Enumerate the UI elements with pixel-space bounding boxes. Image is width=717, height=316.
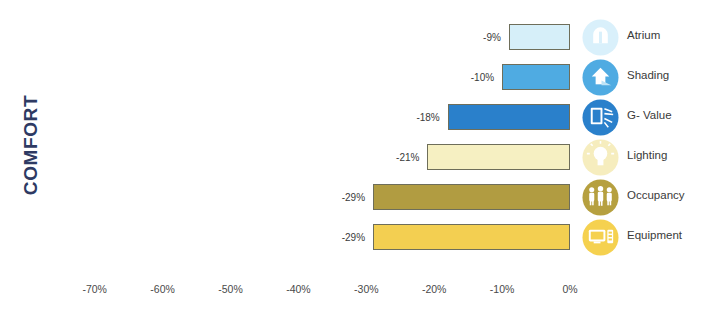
legend-label: Lighting xyxy=(627,149,667,161)
x-tick-label: -40% xyxy=(286,283,311,295)
g-value-icon xyxy=(582,99,619,136)
shading-icon xyxy=(582,59,619,96)
plot-area: -9%Atrium-10%Shading-18%G- Value-21%Ligh… xyxy=(0,0,717,280)
bar-value-label: -29% xyxy=(327,232,365,243)
bar-equipment[interactable] xyxy=(373,224,570,250)
comfort-bar-chart: COMFORT -9%Atrium-10%Shading-18%G- Value… xyxy=(0,0,717,316)
bar-row: -10%Shading xyxy=(0,58,717,98)
x-tick-label: -50% xyxy=(218,283,243,295)
x-tick-label: -60% xyxy=(150,283,175,295)
x-tick-label: -70% xyxy=(82,283,107,295)
bar-row: -29%Equipment xyxy=(0,218,717,258)
atrium-icon xyxy=(582,19,619,56)
bar-row: -29%Occupancy xyxy=(0,178,717,218)
bar-shading[interactable] xyxy=(502,64,570,90)
bar-row: -18%G- Value xyxy=(0,98,717,138)
legend-label: G- Value xyxy=(627,109,672,121)
legend-label: Occupancy xyxy=(627,189,685,201)
legend-label: Equipment xyxy=(627,229,682,241)
legend-label: Shading xyxy=(627,69,669,81)
bar-occupancy[interactable] xyxy=(373,184,570,210)
bar-value-label: -18% xyxy=(402,112,440,123)
x-tick-label: -10% xyxy=(490,283,515,295)
bar-lighting[interactable] xyxy=(427,144,570,170)
x-axis-tick-labels: -70%-60%-50%-40%-30%-20%-10%0% xyxy=(0,283,717,303)
legend-label: Atrium xyxy=(627,29,660,41)
bar-row: -21%Lighting xyxy=(0,138,717,178)
x-tick-label: -30% xyxy=(354,283,379,295)
bar-value-label: -29% xyxy=(327,192,365,203)
bar-value-label: -21% xyxy=(381,152,419,163)
x-tick-label: 0% xyxy=(562,283,577,295)
equipment-icon xyxy=(582,219,619,256)
bar-value-label: -10% xyxy=(456,72,494,83)
bar-atrium[interactable] xyxy=(509,24,570,50)
x-tick-label: -20% xyxy=(422,283,447,295)
occupancy-icon xyxy=(582,179,619,216)
bar-value-label: -9% xyxy=(463,32,501,43)
bar-g-value[interactable] xyxy=(448,104,570,130)
lighting-icon xyxy=(582,139,619,176)
bar-row: -9%Atrium xyxy=(0,18,717,58)
